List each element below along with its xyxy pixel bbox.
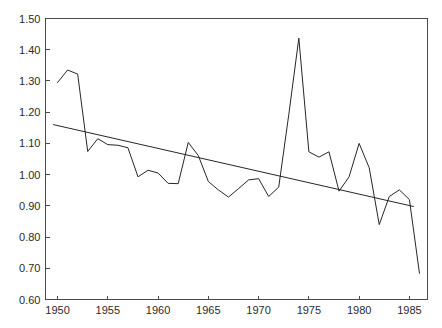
x-tick-label: 1980 <box>347 304 371 316</box>
x-tick-label: 1970 <box>246 304 270 316</box>
x-tick-label: 1965 <box>196 304 220 316</box>
x-tick-label: 1975 <box>297 304 321 316</box>
y-tick-label: 1.30 <box>19 75 40 87</box>
x-tick-label: 1955 <box>96 304 120 316</box>
y-tick-label: 0.80 <box>19 231 40 243</box>
y-tick-label: 1.40 <box>19 44 40 56</box>
x-tick-label: 1960 <box>146 304 170 316</box>
x-tick-label: 1950 <box>45 304 69 316</box>
chart-container: 0.600.700.800.901.001.101.201.301.401.50… <box>0 0 442 328</box>
y-tick-label: 0.90 <box>19 200 40 212</box>
y-tick-label: 0.60 <box>19 294 40 306</box>
y-tick-label: 1.00 <box>19 169 40 181</box>
y-tick-label: 1.50 <box>19 13 40 25</box>
line-chart: 0.600.700.800.901.001.101.201.301.401.50… <box>0 0 442 328</box>
chart-background <box>0 0 442 328</box>
y-tick-label: 0.70 <box>19 262 40 274</box>
x-tick-label: 1985 <box>397 304 421 316</box>
y-tick-label: 1.10 <box>19 137 40 149</box>
y-tick-label: 1.20 <box>19 106 40 118</box>
